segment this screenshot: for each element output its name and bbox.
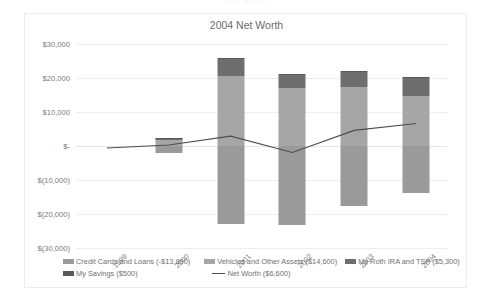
y-axis-tick: $20,000 xyxy=(43,74,76,83)
y-axis-tick: $- xyxy=(63,142,76,151)
plot-area: $30,000$20,000$10,000$-$(10,000)$(20,000… xyxy=(76,44,447,248)
legend-item[interactable]: Credit Cards and Loans (-$13,800) xyxy=(63,257,190,266)
legend-line-icon xyxy=(212,273,225,274)
y-axis-tick: $10,000 xyxy=(43,108,76,117)
legend-swatch-icon xyxy=(63,259,74,264)
y-axis-tick: $(10,000) xyxy=(37,176,76,185)
gridline xyxy=(76,248,447,249)
chart-title: 2004 Net Worth xyxy=(25,19,468,31)
chart-frame: 2004 Net Worth $30,000$20,000$10,000$-$(… xyxy=(24,13,467,288)
legend-swatch-icon xyxy=(204,259,215,264)
ghost-caption: Net Worth xyxy=(0,0,491,5)
legend-item[interactable]: My Roth IRA and TSP ($5,300) xyxy=(345,257,460,266)
legend-item[interactable]: My Savings ($500) xyxy=(63,269,138,278)
legend-label: Credit Cards and Loans (-$13,800) xyxy=(76,257,190,266)
legend-label: Net Worth ($6,600) xyxy=(228,269,291,278)
legend-label: My Roth IRA and TSP ($5,300) xyxy=(358,257,460,266)
net-worth-line-series xyxy=(76,44,447,248)
legend-row: Credit Cards and Loans (-$13,800)Vehicle… xyxy=(25,257,468,266)
legend-item[interactable]: Net Worth ($6,600) xyxy=(212,269,291,278)
legend-item[interactable]: Vehicles and Other Assets ($14,600) xyxy=(204,257,337,266)
chart-legend: Credit Cards and Loans (-$13,800)Vehicle… xyxy=(25,257,468,281)
y-axis-tick: $(30,000) xyxy=(37,244,76,253)
legend-label: My Savings ($500) xyxy=(76,269,138,278)
chart-screenshot: Net Worth 2004 Net Worth $30,000$20,000$… xyxy=(0,0,491,305)
legend-row: My Savings ($500)Net Worth ($6,600) xyxy=(25,269,468,278)
legend-swatch-icon xyxy=(345,259,356,264)
legend-swatch-icon xyxy=(63,271,74,276)
y-axis-tick: $(20,000) xyxy=(37,210,76,219)
net-worth-line xyxy=(107,124,416,153)
legend-label: Vehicles and Other Assets ($14,600) xyxy=(217,257,337,266)
y-axis-tick: $30,000 xyxy=(43,40,76,49)
